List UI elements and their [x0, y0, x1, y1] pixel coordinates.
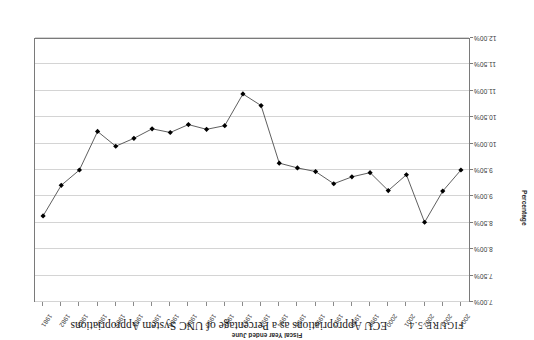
x-axis-tick-mark — [42, 302, 43, 306]
y-axis-tick-label: 8.50% — [474, 220, 534, 227]
y-axis-tick-mark — [470, 116, 473, 117]
figure-title: ECU Appropriations as a Percentage of UN… — [70, 320, 387, 332]
gridline — [35, 222, 469, 223]
gridline — [35, 90, 469, 91]
y-axis-tick-mark — [470, 275, 473, 276]
figure-chart-ecu-appropriations: Fiscal Year ended June Percentage 7.00%7… — [0, 0, 534, 340]
y-axis-tick-mark — [470, 169, 473, 170]
gridline — [35, 195, 469, 196]
figure-number: FIGURE 5.4 — [409, 320, 464, 330]
x-axis-title: Fiscal Year ended June — [0, 332, 534, 339]
y-axis-tick-label: 9.00% — [474, 193, 534, 200]
gridline — [35, 275, 469, 276]
y-axis-tick-mark — [470, 63, 473, 64]
y-axis-tick-mark — [470, 222, 473, 223]
gridline — [35, 143, 469, 144]
y-axis-tick-label: 8.00% — [474, 246, 534, 253]
y-axis-tick-mark — [470, 248, 473, 249]
y-axis-tick-label: 11.50% — [474, 61, 534, 68]
y-axis-tick-label: 11.00% — [474, 88, 534, 95]
figure-caption: FIGURE 5.4 ECU Appropriations as a Perce… — [0, 320, 534, 332]
y-axis-tick-mark — [470, 37, 473, 38]
gridline — [35, 116, 469, 117]
y-axis-tick-label: 12.00% — [474, 35, 534, 42]
y-axis-tick-label: 9.50% — [474, 167, 534, 174]
plot-area — [34, 38, 470, 302]
rotated-page-wrapper: Fiscal Year ended June Percentage 7.00%7… — [0, 0, 534, 340]
y-axis-tick-label: 7.50% — [474, 273, 534, 280]
gridline — [35, 248, 469, 249]
y-axis-tick-mark — [470, 195, 473, 196]
y-axis-tick-label: 10.00% — [474, 141, 534, 148]
gridline — [35, 63, 469, 64]
gridline — [35, 169, 469, 170]
y-axis-tick-label: 10.50% — [474, 114, 534, 121]
y-axis-tick-mark — [470, 90, 473, 91]
y-axis-tick-mark — [470, 143, 473, 144]
gridline — [35, 37, 469, 38]
